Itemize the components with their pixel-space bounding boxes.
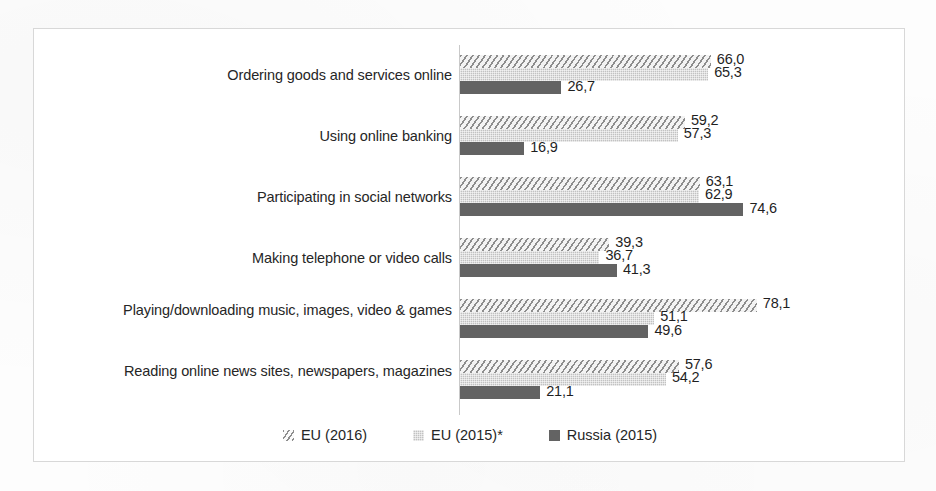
bar-value-label: 74,6 — [749, 200, 776, 216]
bar-russia-2015[interactable] — [460, 264, 617, 277]
category-group: Making telephone or video calls39,336,74… — [34, 238, 906, 294]
legend-item[interactable]: EU (2015)* — [413, 427, 503, 443]
bar-value-label: 62,9 — [705, 186, 732, 202]
bar-value-label: 26,7 — [567, 78, 594, 94]
category-group: Ordering goods and services online66,065… — [34, 55, 906, 111]
category-group: Reading online news sites, newspapers, m… — [34, 360, 906, 416]
legend-label: EU (2015)* — [431, 427, 503, 443]
bar-eu-2015[interactable] — [460, 190, 699, 203]
bar-eu-2015[interactable] — [460, 129, 678, 142]
page-background: Ordering goods and services online66,065… — [0, 0, 936, 491]
chart-legend: EU (2016)EU (2015)*Russia (2015) — [34, 415, 906, 455]
bar-eu-2016[interactable] — [460, 360, 679, 373]
category-label: Reading online news sites, newspapers, m… — [122, 362, 452, 381]
category-group: Using online banking59,257,316,9 — [34, 116, 906, 172]
bar-eu-2015[interactable] — [460, 312, 654, 325]
legend-item[interactable]: Russia (2015) — [549, 427, 657, 443]
bar-value-label: 57,3 — [684, 125, 711, 141]
category-label: Playing/downloading music, images, video… — [122, 301, 452, 320]
bar-value-label: 16,9 — [530, 139, 557, 155]
bar-russia-2015[interactable] — [460, 386, 540, 399]
bar-value-label: 78,1 — [763, 295, 790, 311]
bar-eu-2016[interactable] — [460, 116, 685, 129]
bar-value-label: 41,3 — [623, 261, 650, 277]
chart-frame: Ordering goods and services online66,065… — [33, 28, 905, 462]
bar-eu-2015[interactable] — [460, 251, 599, 264]
plot-area: Ordering goods and services online66,065… — [34, 29, 906, 414]
bar-value-label: 49,6 — [654, 322, 681, 338]
category-group: Participating in social networks63,162,9… — [34, 177, 906, 233]
legend-swatch-icon — [413, 430, 424, 441]
bar-eu-2016[interactable] — [460, 177, 700, 190]
bar-russia-2015[interactable] — [460, 203, 743, 216]
bar-value-label: 21,1 — [546, 383, 573, 399]
legend-label: EU (2016) — [301, 427, 367, 443]
category-label: Ordering goods and services online — [122, 66, 452, 85]
legend-swatch-icon — [283, 430, 294, 441]
category-label: Making telephone or video calls — [122, 249, 452, 268]
legend-swatch-icon — [549, 430, 560, 441]
legend-item[interactable]: EU (2016) — [283, 427, 367, 443]
legend-label: Russia (2015) — [567, 427, 657, 443]
category-group: Playing/downloading music, images, video… — [34, 299, 906, 355]
bar-eu-2016[interactable] — [460, 55, 711, 68]
bar-eu-2016[interactable] — [460, 299, 757, 312]
category-label: Participating in social networks — [122, 188, 452, 207]
bar-value-label: 65,3 — [714, 64, 741, 80]
bar-eu-2016[interactable] — [460, 238, 609, 251]
bar-value-label: 54,2 — [672, 369, 699, 385]
bar-russia-2015[interactable] — [460, 142, 524, 155]
bar-russia-2015[interactable] — [460, 325, 648, 338]
category-label: Using online banking — [122, 127, 452, 146]
bar-russia-2015[interactable] — [460, 81, 561, 94]
